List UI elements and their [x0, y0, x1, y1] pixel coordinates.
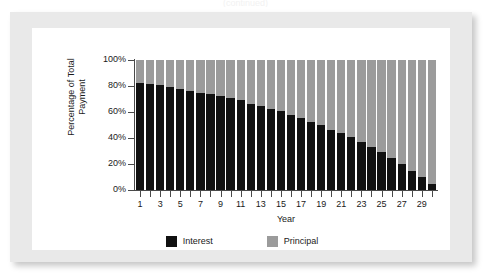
bar-segment-principal: [387, 60, 395, 158]
y-tick-mark: [128, 164, 134, 165]
x-axis-title: Year: [135, 214, 437, 224]
bar-column: [165, 60, 175, 190]
bar-column: [387, 60, 397, 190]
bar-segment-principal: [267, 60, 275, 109]
bar-segment-interest: [357, 142, 365, 190]
bar-segment-interest: [156, 85, 164, 190]
x-tick-label: [427, 198, 437, 210]
bar-segment-interest: [387, 158, 395, 190]
bar-column: [326, 60, 336, 190]
bar-segment-principal: [317, 60, 325, 125]
y-tick-label: 80%: [84, 80, 126, 90]
bar-column: [155, 60, 165, 190]
bar-column: [336, 60, 346, 190]
bar-segment-principal: [257, 60, 265, 106]
x-tick-label: [165, 198, 175, 210]
legend-label: Interest: [183, 236, 213, 246]
x-tick-mark: [195, 191, 205, 197]
bar-column: [427, 60, 437, 190]
x-tick-mark: [356, 191, 366, 197]
bar-segment-interest: [418, 177, 426, 190]
figure-panel: Percentage of Total Payment 100%80%60%40…: [10, 12, 472, 262]
bar-segment-principal: [206, 60, 214, 94]
x-tick-label: 1: [135, 198, 145, 210]
x-tick-mark: [175, 191, 185, 197]
x-tick-mark: [387, 191, 397, 197]
bar-segment-principal: [237, 60, 245, 100]
x-tick-label: 9: [216, 198, 226, 210]
bar-segment-principal: [408, 60, 416, 171]
x-tick-mark: [336, 191, 346, 197]
bar-segment-interest: [297, 118, 305, 190]
x-tick-mark: [256, 191, 266, 197]
bar-segment-interest: [327, 130, 335, 190]
bar-segment-interest: [237, 100, 245, 190]
x-tick-label: 5: [175, 198, 185, 210]
bar-column: [175, 60, 185, 190]
x-tick-mark: [417, 191, 427, 197]
bar-segment-principal: [176, 60, 184, 89]
x-tick-label: [326, 198, 336, 210]
screenshot-root: (continued) Percentage of Total Payment …: [0, 0, 491, 280]
bar-segment-principal: [377, 60, 385, 152]
bar-segment-interest: [287, 115, 295, 190]
x-tick-label: [266, 198, 276, 210]
bar-series-group: [135, 60, 437, 190]
y-tick-label: 40%: [84, 132, 126, 142]
x-tick-label: 17: [296, 198, 306, 210]
x-tick-mark: [276, 191, 286, 197]
bar-column: [296, 60, 306, 190]
bar-column: [286, 60, 296, 190]
x-tick-mark: [306, 191, 316, 197]
x-tick-label: 19: [316, 198, 326, 210]
bar-segment-principal: [398, 60, 406, 164]
x-tick-mark: [216, 191, 226, 197]
bar-segment-principal: [136, 60, 144, 83]
bar-segment-interest: [377, 152, 385, 190]
x-tick-label: [185, 198, 195, 210]
y-tick-label: 100%: [84, 54, 126, 64]
x-tick-label: [205, 198, 215, 210]
bar-segment-principal: [337, 60, 345, 133]
x-tick-label: [346, 198, 356, 210]
bar-column: [346, 60, 356, 190]
bar-segment-interest: [317, 125, 325, 190]
legend-label: Principal: [284, 236, 319, 246]
x-tick-mark: [366, 191, 376, 197]
bar-column: [185, 60, 195, 190]
x-tick-label: 25: [377, 198, 387, 210]
bar-segment-principal: [277, 60, 285, 111]
bar-column: [316, 60, 326, 190]
bar-segment-interest: [206, 94, 214, 190]
x-tick-mark: [316, 191, 326, 197]
legend-swatch: [166, 236, 177, 247]
y-tick-label: 60%: [84, 106, 126, 116]
bar-segment-interest: [337, 133, 345, 190]
bar-segment-principal: [247, 60, 255, 104]
y-tick-label: 0%: [84, 184, 126, 194]
legend-item: Principal: [267, 236, 319, 247]
x-tick-mark: [266, 191, 276, 197]
bar-segment-interest: [367, 147, 375, 190]
bar-segment-interest: [226, 98, 234, 190]
bar-segment-interest: [166, 87, 174, 190]
bar-segment-interest: [176, 89, 184, 190]
bar-segment-interest: [307, 122, 315, 190]
bar-segment-principal: [357, 60, 365, 142]
x-tick-mark: [397, 191, 407, 197]
bar-segment-principal: [418, 60, 426, 177]
y-tick-label: 20%: [84, 158, 126, 168]
x-tick-label: 27: [397, 198, 407, 210]
x-axis-ticks: [135, 191, 437, 197]
x-tick-mark: [236, 191, 246, 197]
x-tick-mark: [185, 191, 195, 197]
bar-column: [226, 60, 236, 190]
bar-segment-interest: [277, 111, 285, 190]
bar-column: [356, 60, 366, 190]
y-tick-mark: [128, 112, 134, 113]
bar-column: [145, 60, 155, 190]
bar-segment-principal: [428, 60, 436, 184]
bar-segment-interest: [408, 171, 416, 191]
x-tick-label: [366, 198, 376, 210]
bar-segment-principal: [166, 60, 174, 87]
